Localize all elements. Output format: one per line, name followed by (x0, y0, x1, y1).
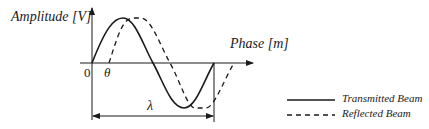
legend-transmitted-label: Transmitted Beam (342, 92, 422, 104)
x-axis-label: Phase [m] (230, 36, 289, 52)
origin-label: 0 (84, 65, 91, 81)
wavelength-label: λ (147, 98, 153, 114)
y-axis-label: Amplitude [V] (11, 9, 92, 25)
legend-reflected-label: Reflected Beam (342, 107, 411, 119)
phase-offset-label: θ (104, 65, 110, 81)
